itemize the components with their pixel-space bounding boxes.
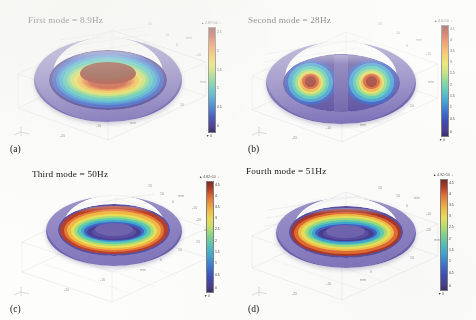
contour-stack-b [283,54,400,111]
axis-tick: -10 [100,278,105,282]
figure-mode-shapes: 20 10 mm 0 -10 mm 10 0 mm -10 -20 First … [0,0,476,320]
panel-title-c: Third mode = 50Hz [32,169,108,179]
panel-label-a: (a) [10,144,21,154]
colorbar-min-label-b: ▼ 0 [439,138,452,142]
axis-triad-icon [12,283,32,297]
colorbar-a: ▲ 2.87×10⁻³ 2.5 2 1.5 1 0.5 0 ▼ 0 [208,22,221,138]
panel-b: 20 10 mm 0 -10 mm 10 0 mm -10 -20 Second… [238,0,476,160]
colorbar-gradient-c: 4.5 4 3.5 3 2.5 2 1.5 1 0.5 0 [206,181,214,293]
contour-stack-a [49,50,167,110]
axis-tick: -10 [196,53,201,57]
axis-tick: 0 [370,270,372,274]
panel-label-d: (d) [248,304,259,314]
axis-tick: -20 [196,218,201,222]
contour-stack-c [58,204,170,256]
colorbar-d: ▲ 4.92×10⁻³ 4.5 4 3.5 3 2.5 2 1.5 1 0.5 … [440,174,453,296]
axis-tick: 10 [396,31,400,35]
axis-tick: mm [200,80,206,84]
panel-title-d: Fourth mode = 51Hz [246,166,327,176]
axis-triad-icon [250,123,270,137]
mode-surface-c [46,196,182,266]
axis-tick: -10 [96,124,101,128]
axis-tick: -10 [426,52,431,56]
axis-tick: -20 [60,134,65,138]
colorbar-min-label-d: ▼ 0 [438,292,453,296]
mode-surface-d [276,198,416,268]
axis-tick: -20 [292,136,297,140]
axis-tick: 20 [378,186,382,190]
axis-tick: -20 [64,288,69,292]
axis-tick: mm [186,36,192,40]
colorbar-gradient-b: 4.5 4 3.5 3 2.5 2 1.5 1 0.5 0 [441,25,449,137]
colorbar-max-label-c: ▲ 4.82×10⁻³ [199,176,219,180]
axis-tick: mm [428,80,434,84]
colorbar-gradient-d: 4.5 4 3.5 3 2.5 2 1.5 1 0.5 0 [440,179,448,291]
axis-tick: 20 [196,240,200,244]
colorbar-ticks-c: 4.5 4 3.5 3 2.5 2 1.5 1 0.5 0 [215,182,229,292]
colorbar-b: ▲ 4.6×10⁻³ 4.5 4 3.5 3 2.5 2 1.5 1 0.5 0… [441,20,452,142]
axis-tick: mm [360,278,366,282]
panel-title-a: First mode = 8.9Hz [28,15,103,25]
colorbar-max-label-d: ▲ 4.92×10⁻³ [433,174,453,178]
axis-tick: 20 [378,22,382,26]
colorbar-min-label-a: ▼ 0 [206,134,221,138]
mode-surface-a [34,38,182,122]
axis-triad-icon [250,283,270,297]
colorbar-c: ▲ 4.82×10⁻³ 4.5 4 3.5 3 2.5 2 1.5 1 0.5 … [206,176,219,298]
panel-c: 20 10 mm 0 -10 -20 mm 20 10 0 mm -10 -20… [0,160,238,320]
axis-tick: 20 [148,184,152,188]
colorbar-ticks-b: 4.5 4 3.5 3 2.5 2 1.5 1 0.5 0 [450,26,464,136]
axis-tick: -10 [426,212,431,216]
colorbar-max-label-b: ▲ 4.6×10⁻³ [434,20,452,24]
colorbar-ticks-d: 4.5 4 3.5 3 2.5 2 1.5 1 0.5 0 [449,180,463,290]
axis-tick: -20 [292,292,297,296]
axis-tick: mm [140,268,146,272]
axis-tick: 10 [165,33,169,37]
panel-label-b: (b) [248,144,259,154]
colorbar-max-label-a: ▲ 2.87×10⁻³ [201,22,221,26]
axis-tick: -10 [326,282,331,286]
mode-surface-b [266,42,416,124]
panel-label-c: (c) [10,304,21,314]
axis-tick: mm [416,38,422,42]
contour-stack-d [289,206,404,258]
axis-tick: -10 [192,206,197,210]
panel-title-b: Second mode = 28Hz [248,15,331,25]
colorbar-min-label-c: ▼ 0 [204,294,219,298]
axis-tick: 20 [148,22,152,26]
axis-tick: -20 [426,228,431,232]
axis-tick: -10 [326,126,331,130]
panel-a: 20 10 mm 0 -10 mm 10 0 mm -10 -20 First … [0,0,238,160]
axis-triad-icon [12,123,32,137]
panel-d: 20 10 mm 0 -10 -20 mm 10 0 mm -10 -20 Fo… [238,160,476,320]
colorbar-ticks-a: 2.5 2 1.5 1 0.5 0 [217,28,231,132]
colorbar-gradient-a: 2.5 2 1.5 1 0.5 0 [208,27,216,133]
